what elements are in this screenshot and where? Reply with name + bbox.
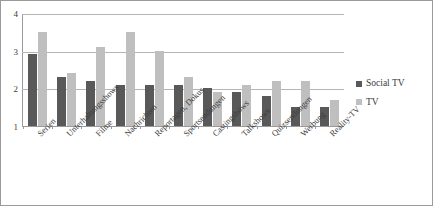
y-axis-tick-label: 1 xyxy=(14,123,19,132)
chart-legend: Social TVTV xyxy=(356,79,432,116)
bar-tv[interactable] xyxy=(155,51,164,126)
x-label-slot: Nachrichten xyxy=(111,128,140,206)
bar-tv[interactable] xyxy=(272,81,281,126)
bar-tv[interactable] xyxy=(126,32,135,126)
bar-social-tv[interactable] xyxy=(28,54,37,126)
y-axis-tick-label: 2 xyxy=(14,85,19,94)
x-label-slot: Reportagen, Dokus xyxy=(140,128,169,206)
x-axis-tick-labels: SerienUnterhaltungsshowsFilmeNachrichten… xyxy=(23,128,345,206)
y-axis-tick-label: 4 xyxy=(14,10,19,19)
legend-item[interactable]: TV xyxy=(356,98,432,108)
chart-figure: 4321 SerienUnterhaltungsshowsFilmeNachri… xyxy=(0,0,433,206)
legend-label: TV xyxy=(366,98,379,108)
x-label-slot: Reality-TV xyxy=(316,128,345,206)
x-label-slot: Talkshows xyxy=(228,128,257,206)
x-label-slot: Unterhaltungsshows xyxy=(52,128,81,206)
bar-social-tv[interactable] xyxy=(57,77,66,126)
bar-group xyxy=(23,14,52,126)
y-axis-tick-labels: 4321 xyxy=(1,14,18,127)
x-label-slot: Serien xyxy=(23,128,52,206)
x-label-slot: Werbung xyxy=(286,128,315,206)
legend-label: Social TV xyxy=(366,79,405,89)
bar-group xyxy=(111,14,140,126)
bar-tv[interactable] xyxy=(67,73,76,126)
bar-tv[interactable] xyxy=(38,32,47,126)
legend-item[interactable]: Social TV xyxy=(356,79,432,89)
x-label-slot: Castingshows xyxy=(199,128,228,206)
bar-group xyxy=(52,14,81,126)
bar-tv[interactable] xyxy=(96,47,105,126)
x-label-slot: Quizsendungen xyxy=(257,128,286,206)
legend-swatch-icon xyxy=(356,81,362,87)
y-axis-tick-label: 3 xyxy=(14,47,19,56)
x-label-slot: Filme xyxy=(82,128,111,206)
x-label-slot: Sportsendungen xyxy=(169,128,198,206)
legend-swatch-icon xyxy=(356,99,362,105)
